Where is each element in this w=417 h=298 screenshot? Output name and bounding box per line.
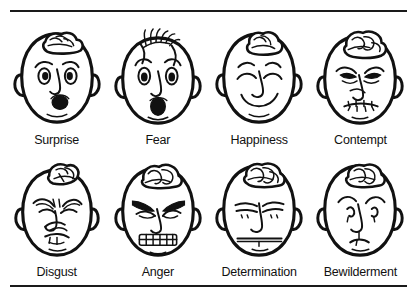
cartoon-face-fear-icon	[107, 27, 208, 131]
top-divider-rule	[10, 10, 407, 12]
faces-row-top: Surprise	[6, 16, 411, 148]
emotion-faces-figure: Surprise	[0, 0, 417, 298]
faces-row-bottom: Disgust	[6, 148, 411, 280]
face-label-fear: Fear	[145, 132, 170, 148]
face-label-contempt: Contempt	[334, 132, 387, 148]
face-cell-disgust: Disgust	[6, 148, 107, 280]
face-cell-bewilderment: Bewilderment	[310, 148, 411, 280]
cartoon-face-surprise-icon	[6, 27, 107, 131]
cartoon-face-contempt-icon	[310, 27, 411, 131]
face-cell-determination: Determination	[209, 148, 310, 280]
face-label-disgust: Disgust	[36, 264, 76, 280]
face-label-anger: Anger	[142, 264, 174, 280]
face-cell-happiness: Happiness	[209, 16, 310, 148]
face-cell-anger: Anger	[107, 148, 208, 280]
face-cell-fear: Fear	[107, 16, 208, 148]
cartoon-face-happiness-icon	[209, 27, 310, 131]
cartoon-face-disgust-icon	[6, 159, 107, 263]
face-label-happiness: Happiness	[230, 132, 287, 148]
cartoon-face-bewilderment-icon	[310, 159, 411, 263]
face-label-bewilderment: Bewilderment	[324, 264, 397, 280]
face-label-determination: Determination	[222, 264, 297, 280]
face-label-surprise: Surprise	[34, 132, 79, 148]
bottom-divider-rule	[10, 285, 407, 287]
cartoon-face-anger-icon	[107, 159, 208, 263]
face-cell-contempt: Contempt	[310, 16, 411, 148]
faces-grid: Surprise	[6, 16, 411, 280]
cartoon-face-determination-icon	[209, 159, 310, 263]
face-cell-surprise: Surprise	[6, 16, 107, 148]
